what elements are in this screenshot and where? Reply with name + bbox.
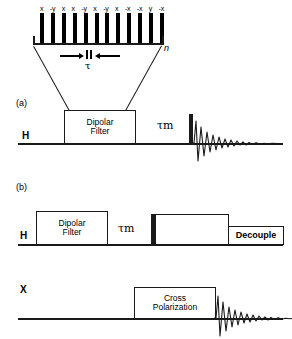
tau-label: τ	[85, 60, 91, 71]
panel-a-tau-subscript: m	[163, 119, 173, 132]
phase-label: -x	[137, 5, 142, 12]
panel-b-decouple-box: Decouple	[228, 226, 284, 245]
panel-a-channel-label-h: H	[22, 130, 29, 141]
tau-arrow-shaft-left	[60, 55, 80, 57]
tau-arrowhead-right	[79, 53, 84, 59]
tau-delimiter-left	[86, 50, 88, 59]
rf-pulse	[149, 13, 153, 43]
rf-pulse	[84, 13, 88, 43]
rf-pulse	[40, 13, 44, 43]
tau-delimiter-right	[90, 50, 92, 59]
connector-line-right	[121, 45, 162, 118]
rf-pulse	[51, 13, 55, 43]
panel-b-channel-label-x: X	[20, 284, 27, 295]
rf-pulse	[116, 13, 120, 43]
panel-b-decouple-label: Decouple	[236, 231, 277, 241]
phase-label: y	[149, 5, 152, 12]
panel-b-tau-subscript: m	[124, 222, 134, 235]
phase-label: -y	[50, 5, 55, 12]
tau-arrow-shaft-right	[100, 55, 120, 57]
rf-pulse	[95, 13, 99, 43]
phase-label: -x	[159, 5, 164, 12]
rf-pulse	[105, 13, 109, 43]
panel-b-cross-polarization-box: Cross Polarization	[134, 287, 216, 319]
pulse-train	[40, 13, 164, 43]
panel-b-channel-label-h: H	[20, 230, 27, 241]
connector-line-left	[33, 46, 74, 119]
panel-b-fid-signal	[214, 288, 292, 338]
panel-a-dipolar-filter-box: Dipolar Filter	[64, 110, 136, 144]
panel-a-label: (a)	[16, 98, 27, 108]
panel-b-cp-line2: Polarization	[153, 303, 197, 312]
rf-pulse	[138, 13, 142, 43]
panel-b-dipolar-filter-box: Dipolar Filter	[36, 211, 108, 245]
phase-label: -x	[125, 5, 130, 12]
rf-pulse	[62, 13, 66, 43]
panel-b-dipolar-filter-line2: Filter	[59, 228, 86, 237]
phase-label: x	[93, 5, 96, 12]
bracket-tick-left	[33, 36, 35, 45]
rf-pulse	[73, 13, 77, 43]
rf-pulse	[127, 13, 131, 43]
panel-a-fid-signal	[192, 113, 282, 163]
repeat-count-n: n	[164, 43, 169, 53]
phase-label: x	[62, 5, 65, 12]
panel-b-label: (b)	[16, 182, 27, 192]
panel-b-mixing-time-label: τm	[118, 222, 135, 235]
phase-label: x	[40, 5, 43, 12]
panel-b-contact-box	[155, 214, 229, 245]
panel-a-mixing-time-label: τm	[157, 119, 174, 132]
phase-label: -y	[103, 5, 108, 12]
pulse-train-baseline	[33, 43, 164, 45]
phase-label: x	[115, 5, 118, 12]
phase-label: x	[72, 5, 75, 12]
figure-canvas: x -y x x -y x -y x -x -x y -x n τ	[0, 0, 292, 339]
phase-label-row: x -y x x -y x -y x -x -x y -x	[40, 1, 164, 12]
panel-a-dipolar-filter-line2: Filter	[87, 127, 114, 136]
phase-label: -y	[81, 5, 86, 12]
